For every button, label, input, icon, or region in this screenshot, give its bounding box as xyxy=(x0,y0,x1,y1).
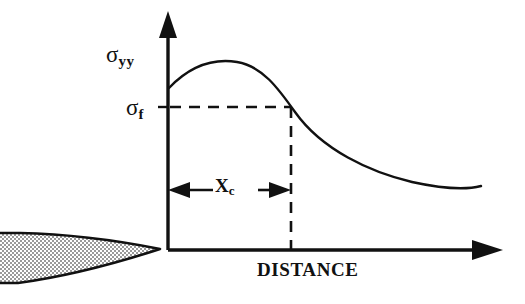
sigma-yy-axis-label: σyy xyxy=(106,43,134,69)
xc-right-arrowhead-icon xyxy=(269,182,291,198)
stress-distribution-figure: σyy σf Xc DISTANCE xyxy=(0,0,525,304)
xc-label: Xc xyxy=(215,176,235,197)
sigma-f-label: σf xyxy=(126,96,143,122)
y-axis-arrowhead-icon xyxy=(159,11,177,38)
sigma-f-symbol: σ xyxy=(126,95,138,120)
stress-curve xyxy=(169,61,481,188)
notch-wedge xyxy=(0,233,160,283)
xc-left-arrowhead-icon xyxy=(168,182,190,198)
xc-subscript: c xyxy=(229,183,235,198)
sigma-yy-subscript: yy xyxy=(118,53,134,69)
sigma-yy-symbol: σ xyxy=(106,42,118,67)
xc-symbol: X xyxy=(215,175,229,196)
sigma-f-subscript: f xyxy=(138,106,143,122)
x-axis-arrowhead-icon xyxy=(472,240,503,260)
distance-axis-label: DISTANCE xyxy=(257,260,359,279)
